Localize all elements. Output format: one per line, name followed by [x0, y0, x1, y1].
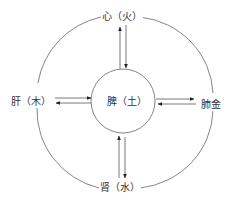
arrow-pair-right	[156, 99, 196, 104]
arrow-pair-bottom	[119, 136, 125, 178]
node-spleen-earth: 脾（土）	[106, 96, 148, 108]
arrow-pair-top	[120, 25, 126, 69]
arrow-pair-left	[55, 98, 91, 103]
node-kidney-water: 肾（水）	[99, 182, 141, 194]
node-lung-metal: 肺金	[200, 99, 222, 111]
node-liver-wood: 肝（木）	[10, 96, 52, 108]
node-heart-fire: 心（火）	[101, 11, 143, 23]
